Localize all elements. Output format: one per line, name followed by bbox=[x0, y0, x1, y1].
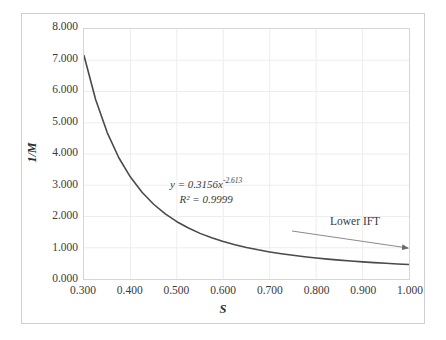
y-axis-tick-label: 3.000 bbox=[28, 178, 78, 190]
y-axis-tick-label: 8.000 bbox=[28, 20, 78, 32]
y-axis-tick-label: 2.000 bbox=[28, 209, 78, 221]
chart-figure: 0.0001.0002.0003.0004.0005.0006.0007.000… bbox=[0, 0, 446, 340]
series-line bbox=[84, 56, 409, 265]
x-axis-title: S bbox=[0, 302, 446, 317]
y-axis-title: 1/M bbox=[25, 142, 40, 162]
equation-expression: y = 0.3156x bbox=[170, 178, 223, 190]
equation-exponent: -2.613 bbox=[223, 176, 242, 185]
y-axis-tick-label: 0.000 bbox=[28, 272, 78, 284]
equation-line: y = 0.3156x-2.613 bbox=[170, 176, 242, 192]
y-axis-tick-label: 1.000 bbox=[28, 241, 78, 253]
plot-area bbox=[83, 28, 410, 280]
data-curve bbox=[84, 29, 409, 279]
x-axis-tick-label: 1.000 bbox=[382, 284, 438, 296]
lower-ift-label: Lower IFT bbox=[330, 215, 380, 227]
y-axis-tick-label: 6.000 bbox=[28, 83, 78, 95]
r-squared-line: R² = 0.9999 bbox=[170, 192, 242, 207]
y-axis-tick-label: 5.000 bbox=[28, 115, 78, 127]
y-axis-tick-label: 7.000 bbox=[28, 52, 78, 64]
trendline-equation-annotation: y = 0.3156x-2.613 R² = 0.9999 bbox=[170, 176, 242, 206]
